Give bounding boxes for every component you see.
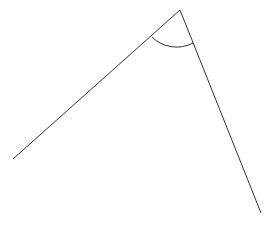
ray-left: [13, 10, 180, 159]
ray-right: [180, 10, 261, 213]
angle-arc: [152, 37, 193, 47]
angle-diagram: [0, 0, 271, 227]
